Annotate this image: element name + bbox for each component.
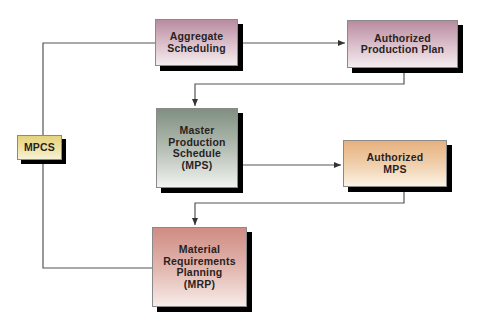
master-production-schedule-box: Master Production Schedule (MPS) (156, 108, 238, 188)
authorized-mps-label: Authorized MPS (367, 152, 424, 175)
mpcs-label: MPCS (24, 142, 55, 154)
master-production-schedule-label: Master Production Schedule (MPS) (168, 125, 225, 171)
authorized-production-plan-label: Authorized Production Plan (361, 33, 445, 56)
edge-mpcs-aggregate (43, 43, 155, 135)
edge-app-mps (195, 73, 404, 106)
material-requirements-planning-label: Material Requirements Planning (MRP) (163, 244, 235, 290)
aggregate-scheduling-box: Aggregate Scheduling (155, 19, 238, 66)
authorized-production-plan-box: Authorized Production Plan (347, 20, 458, 68)
authorized-mps-box: Authorized MPS (343, 140, 447, 187)
edge-amps-mrp (195, 192, 404, 225)
aggregate-scheduling-label: Aggregate Scheduling (167, 31, 226, 54)
material-requirements-planning-box: Material Requirements Planning (MRP) (152, 227, 247, 307)
edge-mpcs-mrp (43, 161, 152, 268)
mpcs-box: MPCS (17, 135, 62, 160)
